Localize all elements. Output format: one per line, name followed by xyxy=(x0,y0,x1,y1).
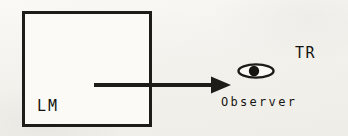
tr-region-label: TR xyxy=(295,46,316,61)
arrow-head xyxy=(211,77,231,94)
diagram-canvas: LM TR Observer xyxy=(0,0,348,136)
lm-region-label: LM xyxy=(37,99,59,114)
light-ray-arrow xyxy=(92,72,234,98)
eye-icon xyxy=(236,60,276,82)
eye-pupil xyxy=(249,66,259,76)
observer-label: Observer xyxy=(221,96,297,108)
